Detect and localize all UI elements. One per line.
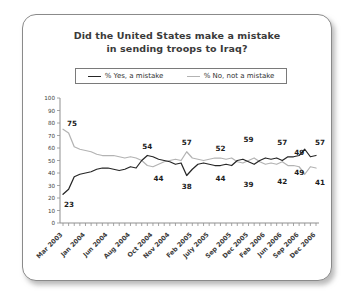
data-point-label: 38: [182, 182, 192, 191]
y-axis-ticks: 0102030405060708090100: [44, 95, 60, 226]
data-point-label: 44: [154, 174, 164, 183]
y-axis-tick-label: 90: [48, 108, 56, 114]
x-axis: [60, 223, 319, 226]
data-point-label: 57: [315, 138, 325, 147]
data-point-label: 42: [277, 177, 287, 186]
y-axis-tick-label: 0: [51, 220, 55, 226]
y-axis-tick-label: 40: [48, 170, 56, 176]
y-axis-tick-label: 70: [48, 133, 56, 139]
y-axis-tick-label: 60: [48, 145, 56, 151]
chart-svg: 0102030405060708090100 Mar 2003Jan 2004J…: [23, 15, 333, 282]
plot-area: 0102030405060708090100 Mar 2003Jan 2004J…: [23, 15, 333, 282]
data-point-label: 44: [215, 174, 225, 183]
data-point-label: 59: [244, 135, 254, 144]
data-point-label: 23: [64, 200, 74, 209]
data-point-label: 52: [215, 144, 225, 153]
x-axis-tick-label: Mar 2003: [35, 231, 65, 261]
y-axis-tick-label: 20: [48, 195, 56, 201]
data-point-label: 54: [142, 142, 152, 151]
data-point-label: 57: [182, 138, 192, 147]
y-axis-tick-label: 50: [48, 158, 56, 164]
chart-page: Did the United States make a mistake in …: [0, 0, 359, 307]
x-axis-labels: Mar 2003Jan 2004Jun 2004Aug 2004Oct 2004…: [35, 230, 318, 260]
y-axis-tick-label: 100: [44, 95, 55, 101]
data-point-label: 41: [315, 178, 325, 187]
chart-card: Did the United States make a mistake in …: [22, 14, 332, 281]
data-point-label: 39: [244, 180, 254, 189]
y-axis-tick-label: 10: [48, 208, 56, 214]
data-point-label: 75: [67, 119, 77, 128]
y-axis-tick-label: 30: [48, 183, 56, 189]
data-point-label: 57: [277, 138, 287, 147]
series-line-no: [63, 129, 316, 174]
y-axis: 0102030405060708090100: [44, 95, 60, 226]
y-axis-tick-label: 80: [48, 120, 56, 126]
data-point-label: 49: [294, 148, 304, 157]
data-point-label: 49: [294, 168, 304, 177]
